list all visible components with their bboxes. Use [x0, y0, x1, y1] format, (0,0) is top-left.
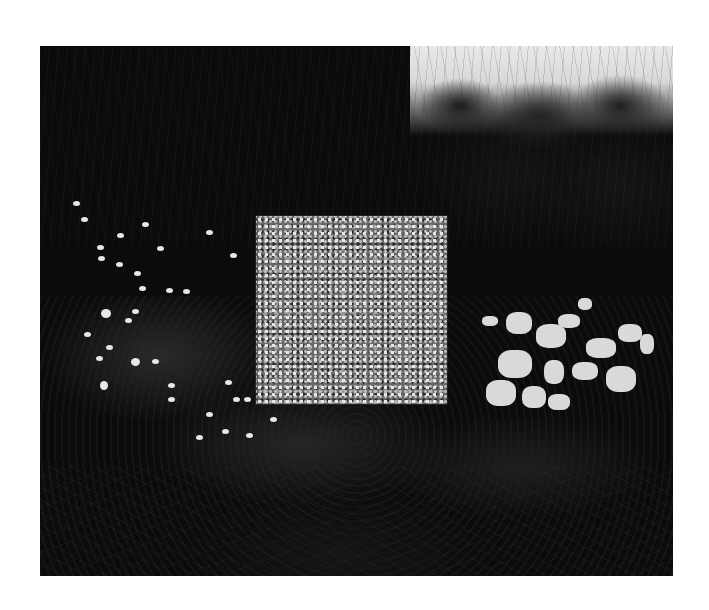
white-azalea-bush: [478, 294, 660, 412]
photograph: [40, 46, 673, 576]
ground-foliage: [40, 466, 673, 576]
patterned-square-panel: [256, 216, 447, 404]
